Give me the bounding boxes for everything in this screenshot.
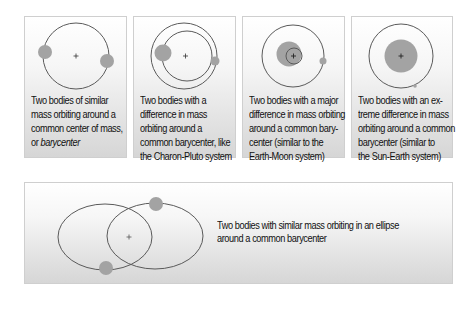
barycenter-plus-icon (183, 54, 188, 59)
caption-line: barycenter (similar to (358, 136, 455, 150)
caption-line: treme difference in mass (358, 108, 455, 122)
caption-difference-in-mass: Two bodies with a difference in mass orb… (140, 94, 232, 164)
caption-major-difference: Two bodies with a major difference in ma… (249, 94, 345, 164)
panel-difference-in-mass: Two bodies with a difference in mass orb… (133, 16, 236, 158)
body-top (149, 197, 163, 211)
caption-line: difference in mass orbiting (249, 108, 345, 122)
caption-line: around a common bary- (249, 122, 345, 136)
caption-italic-term: barycenter (41, 137, 80, 148)
caption-elliptical-orbit: Two bodies with similar mass orbiting in… (217, 219, 399, 245)
orbit-ellipse-right (107, 203, 203, 269)
major-difference-diagram (243, 17, 346, 97)
caption-similar-mass: Two bodies of similar mass orbiting arou… (31, 94, 123, 150)
body-large (155, 45, 172, 62)
caption-line: mass orbiting around a (31, 108, 123, 122)
body-small (211, 57, 220, 66)
similar-mass-diagram (25, 17, 128, 97)
barycenter-plus-icon (74, 54, 79, 59)
panel-elliptical-orbit: Two bodies with similar mass orbiting in… (24, 182, 453, 284)
orbit-ellipse-left (58, 204, 152, 270)
extreme-difference-diagram (352, 17, 454, 97)
caption-line: Two bodies with similar mass orbiting in… (217, 219, 399, 232)
body-small (320, 58, 327, 65)
caption-line: difference in mass (140, 108, 232, 122)
caption-extreme-difference: Two bodies with an ex- treme difference … (358, 94, 455, 164)
caption-line: the Sun-Earth system) (358, 150, 455, 164)
panel-similar-mass: Two bodies of similar mass orbiting arou… (24, 16, 127, 158)
caption-line: Two bodies with a (140, 94, 232, 108)
caption-line: orbiting around a common (358, 122, 455, 136)
caption-line: Two bodies with an ex- (358, 94, 455, 108)
caption-line: common center of mass, (31, 122, 123, 136)
body-left (38, 45, 52, 59)
barycenter-plus-icon (127, 235, 132, 240)
body-tiny (413, 84, 417, 88)
caption-prefix: or (31, 137, 41, 148)
elliptical-orbit-diagram (25, 183, 225, 285)
caption-line: or barycenter (31, 136, 123, 150)
caption-line: common barycenter, like (140, 136, 232, 150)
caption-line: around a common barycenter (217, 232, 399, 245)
caption-line: Two bodies with a major (249, 94, 345, 108)
body-bottom (99, 261, 113, 275)
caption-line: orbiting around a (140, 122, 232, 136)
caption-line: the Charon-Pluto system (140, 150, 232, 164)
panel-extreme-difference: Two bodies with an ex- treme difference … (351, 16, 453, 158)
caption-line: Earth-Moon system) (249, 150, 345, 164)
panel-major-difference: Two bodies with a major difference in ma… (242, 16, 345, 158)
body-right (100, 54, 114, 68)
caption-line: Two bodies of similar (31, 94, 123, 108)
caption-line: center (similar to the (249, 136, 345, 150)
difference-in-mass-diagram (134, 17, 237, 97)
